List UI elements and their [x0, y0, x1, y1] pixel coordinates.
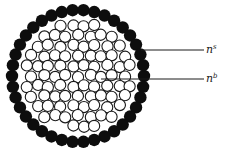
bulk-atom [42, 39, 53, 50]
bulk-atom [78, 60, 89, 71]
surface-atom [77, 4, 89, 16]
bulk-atoms [21, 19, 135, 132]
surface-atom [9, 91, 21, 103]
bulk-atom [78, 80, 89, 91]
bulk-atom [102, 80, 113, 91]
bulk-atom [39, 112, 50, 123]
bulk-atom [42, 100, 53, 111]
surface-atom [7, 59, 19, 71]
bulk-atom [95, 29, 106, 40]
bulk-atom [95, 110, 106, 121]
bulk-atom [55, 79, 66, 90]
surface-atom [6, 70, 18, 82]
bulk-atom [89, 120, 100, 131]
bulk-atom [95, 90, 106, 101]
bulk-atom [114, 40, 125, 51]
bulk-atom [49, 29, 60, 40]
surface-atom [138, 70, 150, 82]
surface-atom [66, 136, 78, 148]
bulk-label: nb [206, 72, 218, 85]
bulk-atom [39, 90, 50, 101]
bulk-atom [39, 70, 50, 81]
bulk-atom [25, 91, 36, 102]
bulk-atom [73, 29, 84, 40]
surface-atom [77, 136, 89, 148]
surface-atom [137, 81, 149, 93]
bulk-atom [72, 110, 83, 121]
bulk-atom [89, 100, 100, 111]
surface-atom [88, 134, 100, 146]
bulk-atom [124, 59, 135, 70]
surface-label: ns [206, 43, 217, 56]
surface-atom [137, 59, 149, 71]
bulk-atom [102, 59, 113, 70]
bulk-atom [49, 50, 60, 61]
bulk-atom [106, 111, 117, 122]
bulk-atom [68, 39, 79, 50]
bulk-atom [89, 40, 100, 51]
bulk-atom [85, 69, 96, 80]
bulk-atom [60, 90, 71, 101]
bulk-atom [68, 61, 79, 72]
particle-diagram: ns nb [0, 0, 226, 156]
surface-atom [56, 6, 68, 18]
bulk-atom [25, 49, 36, 60]
bulk-atom [21, 60, 32, 71]
bulk-atom [78, 121, 89, 132]
bulk-atom [60, 69, 71, 80]
bulk-atom [114, 99, 125, 110]
bulk-atom [89, 19, 100, 30]
bulk-atom [50, 110, 61, 121]
surface-atom [66, 4, 78, 16]
bulk-atom [68, 120, 79, 131]
surface-atom [7, 81, 19, 93]
